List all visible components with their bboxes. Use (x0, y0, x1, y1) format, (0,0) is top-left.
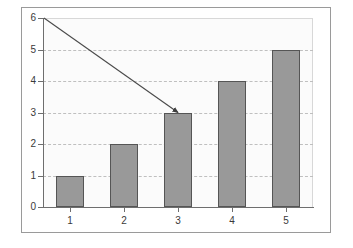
bar-4[interactable] (218, 81, 246, 207)
x-tick (178, 207, 179, 212)
x-tick (70, 207, 71, 212)
y-tick-label: 1 (22, 171, 36, 181)
chart-plot-wrapper: 0123456 12345 (22, 8, 332, 234)
bar-2[interactable] (110, 144, 138, 207)
y-tick (38, 50, 43, 51)
y-axis-line (43, 18, 44, 208)
y-tick (38, 207, 43, 208)
y-tick-label: 3 (22, 108, 36, 118)
y-tick-label: 4 (22, 76, 36, 86)
bar-3[interactable] (164, 113, 192, 208)
y-tick-label: 6 (22, 13, 36, 23)
x-tick-label: 2 (112, 216, 136, 226)
chart-frame: 0123456 12345 (21, 7, 331, 233)
y-tick-label: 2 (22, 139, 36, 149)
y-tick (38, 81, 43, 82)
x-tick-label: 5 (274, 216, 298, 226)
bar-5[interactable] (272, 50, 300, 208)
x-tick-label: 4 (220, 216, 244, 226)
y-tick (38, 176, 43, 177)
x-tick (286, 207, 287, 212)
x-tick-label: 1 (58, 216, 82, 226)
bar-1[interactable] (56, 176, 84, 208)
y-tick-label: 5 (22, 45, 36, 55)
y-tick (38, 18, 43, 19)
x-tick (124, 207, 125, 212)
y-tick-label: 0 (22, 202, 36, 212)
x-tick (232, 207, 233, 212)
x-tick-label: 3 (166, 216, 190, 226)
y-tick (38, 144, 43, 145)
y-tick (38, 113, 43, 114)
